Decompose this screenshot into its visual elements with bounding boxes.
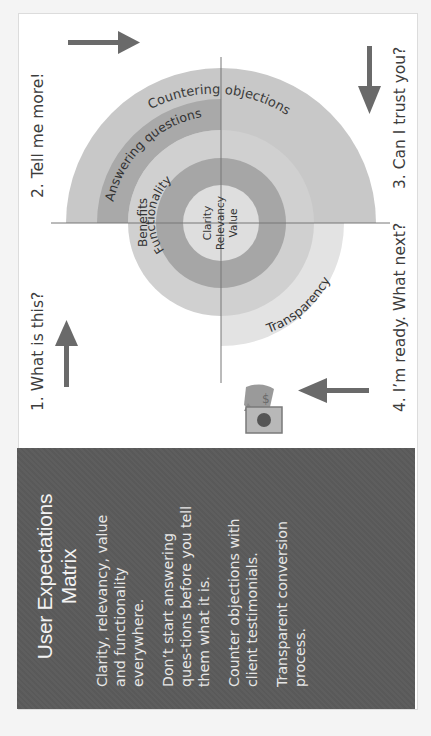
panel-paragraph-3: Counter objections with client testimoni… — [225, 497, 261, 687]
right-arrow-icon — [68, 31, 140, 54]
step-3-label: 3. Can I trust you? — [391, 47, 409, 189]
down-arrow-icon — [358, 46, 381, 114]
core-label-clarity: Clarity — [201, 206, 213, 240]
step-2-label: 2. Tell me more! — [29, 72, 47, 198]
panel-paragraph-2: Don’t start answering ques-tions before … — [159, 497, 213, 687]
money-bag-icon: $ — [240, 379, 282, 433]
left-arrow-icon — [298, 378, 369, 403]
svg-text:$: $ — [262, 392, 270, 406]
core-label-relevancy: Relevancy — [214, 196, 226, 250]
core-label-value: Value — [227, 209, 239, 238]
up-arrow-icon — [55, 320, 78, 387]
step-1-label: 1. What is this? — [29, 292, 47, 411]
panel-paragraph-4: Transparent conversion process. — [273, 497, 309, 687]
panel-paragraph-1: Clarity, relevancy, value and functional… — [93, 497, 147, 687]
panel-title: User Expectations Matrix — [33, 466, 81, 687]
expectations-diagram: Countering objections Answering question… — [0, 0, 431, 448]
info-panel-content: User Expectations Matrix Clarity, releva… — [17, 448, 415, 709]
info-panel: User Expectations Matrix Clarity, releva… — [17, 448, 415, 709]
step-4-label: 4. I’m ready. What next? — [391, 223, 409, 412]
benefits-label: Benefits — [136, 198, 150, 247]
